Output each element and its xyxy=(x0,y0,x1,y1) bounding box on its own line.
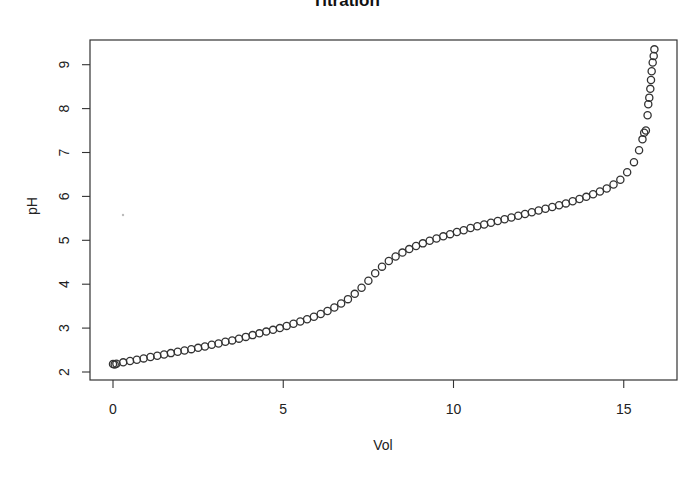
data-point xyxy=(331,304,338,311)
data-point xyxy=(501,216,508,223)
y-tick-label: 9 xyxy=(56,61,72,69)
data-point xyxy=(603,185,610,192)
data-point xyxy=(147,353,154,360)
data-point xyxy=(269,326,276,333)
data-point xyxy=(174,348,181,355)
data-point xyxy=(481,221,488,228)
data-point xyxy=(596,188,603,195)
y-tick-label: 8 xyxy=(56,104,72,112)
data-point xyxy=(647,85,654,92)
data-point xyxy=(140,355,147,362)
data-point xyxy=(154,352,161,359)
data-point xyxy=(290,320,297,327)
data-point xyxy=(256,330,263,337)
data-point xyxy=(263,328,270,335)
data-point xyxy=(201,343,208,350)
data-point xyxy=(365,277,372,284)
data-point xyxy=(126,357,133,364)
data-point xyxy=(433,235,440,242)
data-point xyxy=(406,245,413,252)
data-point xyxy=(610,181,617,188)
data-point xyxy=(542,205,549,212)
plot-border xyxy=(90,40,677,380)
data-point xyxy=(494,217,501,224)
data-point xyxy=(276,325,283,332)
y-axis: 23456789 xyxy=(56,61,90,376)
data-point xyxy=(562,200,569,207)
data-point xyxy=(440,233,447,240)
y-tick-label: 3 xyxy=(56,324,72,332)
data-point xyxy=(351,290,358,297)
data-point xyxy=(181,347,188,354)
data-point xyxy=(508,214,515,221)
data-point xyxy=(297,318,304,325)
data-point xyxy=(474,223,481,230)
data-point xyxy=(310,313,317,320)
data-point xyxy=(576,195,583,202)
data-point xyxy=(303,316,310,323)
data-point xyxy=(399,249,406,256)
data-point xyxy=(642,127,649,134)
y-axis-label: pH xyxy=(24,197,40,215)
data-point xyxy=(229,337,236,344)
data-point xyxy=(160,351,167,358)
data-point xyxy=(521,210,528,217)
data-point xyxy=(644,112,651,119)
data-point xyxy=(324,307,331,314)
data-point xyxy=(617,176,624,183)
data-point xyxy=(467,224,474,231)
data-point xyxy=(242,333,249,340)
speck xyxy=(122,214,124,216)
data-point xyxy=(630,159,637,166)
data-point xyxy=(555,202,562,209)
x-tick-label: 15 xyxy=(616,401,632,417)
data-point xyxy=(167,350,174,357)
data-point xyxy=(338,300,345,307)
data-point xyxy=(453,228,460,235)
y-tick-label: 5 xyxy=(56,236,72,244)
y-tick-label: 7 xyxy=(56,148,72,156)
x-axis: 051015 xyxy=(109,380,632,417)
data-point xyxy=(385,257,392,264)
data-point xyxy=(647,76,654,83)
data-point xyxy=(528,209,535,216)
data-point xyxy=(235,335,242,342)
data-point xyxy=(460,227,467,234)
data-point xyxy=(120,359,127,366)
data-point xyxy=(569,198,576,205)
x-tick-label: 10 xyxy=(446,401,462,417)
data-point xyxy=(419,240,426,247)
x-tick-label: 0 xyxy=(109,401,117,417)
plot-frame xyxy=(90,40,677,380)
data-point xyxy=(208,341,215,348)
data-point xyxy=(426,237,433,244)
data-point xyxy=(317,310,324,317)
data-point xyxy=(195,344,202,351)
data-point xyxy=(635,147,642,154)
data-point xyxy=(549,203,556,210)
data-point xyxy=(344,296,351,303)
data-point xyxy=(535,207,542,214)
data-point xyxy=(487,219,494,226)
data-point xyxy=(392,253,399,260)
data-point xyxy=(222,338,229,345)
y-tick-label: 6 xyxy=(56,192,72,200)
data-point xyxy=(590,191,597,198)
x-tick-label: 5 xyxy=(279,401,287,417)
data-point xyxy=(412,242,419,249)
data-point xyxy=(358,284,365,291)
data-point xyxy=(648,68,655,75)
data-points xyxy=(109,46,658,368)
data-point xyxy=(446,231,453,238)
data-point xyxy=(249,332,256,339)
x-axis-label: Vol xyxy=(0,437,692,453)
y-tick-label: 2 xyxy=(56,368,72,376)
data-point xyxy=(583,193,590,200)
data-point xyxy=(133,356,140,363)
data-point xyxy=(372,270,379,277)
data-point xyxy=(624,169,631,176)
scatter-plot: 051015 23456789 xyxy=(0,0,692,502)
data-point xyxy=(283,322,290,329)
data-point xyxy=(378,263,385,270)
data-point xyxy=(215,340,222,347)
